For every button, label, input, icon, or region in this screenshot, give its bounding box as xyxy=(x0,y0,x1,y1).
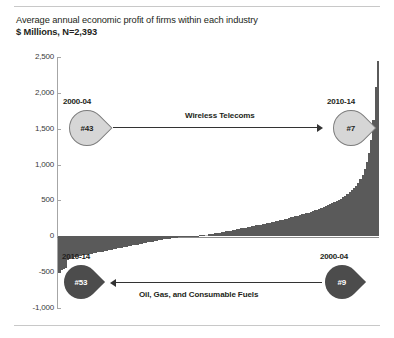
bar xyxy=(377,61,380,237)
arrow-right-icon xyxy=(317,124,323,132)
callout-label: Oil, Gas, and Consumable Fuels xyxy=(139,290,258,299)
y-axis-tick xyxy=(57,308,61,309)
callout-arrow-line xyxy=(113,127,318,128)
callout-arrow-line xyxy=(116,282,322,283)
callout-right-period: 2010-14 xyxy=(327,97,355,106)
y-axis-tick-label: 1,000 xyxy=(35,160,54,169)
bottom-divider xyxy=(14,325,380,326)
y-axis-tick-label: 1,500 xyxy=(35,124,54,133)
y-axis-tick-label: 2,000 xyxy=(35,88,54,97)
callout-left-rank-label: #53 xyxy=(75,278,88,287)
y-axis-tick-label: 2,500 xyxy=(35,52,54,61)
y-axis-tick-label: -1,000 xyxy=(33,303,54,312)
callout-left-period: 2000-04 xyxy=(63,97,91,106)
callout-left-rank-label: #43 xyxy=(81,124,94,133)
callout-left-period: 2010-14 xyxy=(62,252,90,261)
y-axis-tick-label: 0 xyxy=(50,231,54,240)
callout-right-period: 2000-04 xyxy=(320,252,348,261)
callout-right-rank-label: #9 xyxy=(338,278,347,287)
y-axis-tick-label: 500 xyxy=(41,195,54,204)
callout-label: Wireless Telecoms xyxy=(185,111,255,120)
callout-right-rank-label: #7 xyxy=(347,124,356,133)
y-axis-tick-label: -500 xyxy=(39,267,54,276)
